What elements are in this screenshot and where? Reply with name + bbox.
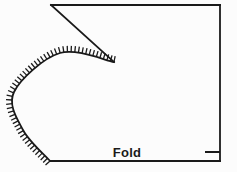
- seam-hatch-tick: [17, 77, 22, 81]
- seam-hatch-tick: [46, 161, 50, 165]
- seam-hatch-tick: [78, 47, 79, 53]
- seam-hatch-tick: [11, 118, 16, 121]
- seam-hatch-tick: [30, 145, 34, 149]
- seam-hatch-tick: [7, 95, 13, 96]
- seam-hatch-tick: [15, 124, 20, 127]
- seam-hatch-tick: [114, 56, 115, 62]
- seam-hatch-tick: [8, 91, 14, 93]
- seam-hatch-tick: [59, 47, 61, 53]
- hatched-seam-curve: [6, 46, 115, 165]
- seam-hatch-tick: [43, 158, 47, 162]
- seam-hatch-tick: [47, 52, 50, 57]
- seam-hatch-tick: [37, 59, 41, 64]
- pattern-diagram: Fold: [0, 0, 237, 172]
- seam-hatch-tick: [7, 107, 13, 108]
- seam-hatch-tick: [25, 140, 30, 144]
- seam-hatch-tick: [23, 71, 27, 75]
- seam-hatch-tick: [63, 46, 64, 52]
- seam-hatch-tick: [103, 53, 105, 59]
- seam-hatch-tick: [12, 83, 17, 86]
- seam-hatch-tick: [93, 50, 95, 56]
- seam-curve-path: [12, 52, 114, 161]
- seam-hatch-tick: [28, 66, 32, 70]
- seam-hatch-tick: [40, 56, 43, 61]
- seam-hatch-tick: [33, 148, 37, 152]
- seam-hatch-tick: [6, 104, 12, 105]
- seam-hatch-tick: [13, 121, 18, 124]
- seam-hatch-tick: [31, 63, 35, 68]
- seam-hatch-tick: [100, 52, 102, 58]
- seam-hatch-tick: [51, 50, 54, 55]
- seam-hatch-tick: [75, 46, 76, 52]
- seam-hatch-tick: [86, 48, 87, 54]
- seam-hatch-tick: [23, 137, 28, 141]
- seam-hatch-marks: [6, 46, 115, 165]
- seam-hatch-tick: [96, 51, 98, 57]
- seam-hatch-tick: [8, 111, 14, 113]
- seam-hatch-tick: [25, 68, 29, 72]
- seam-hatch-tick: [18, 131, 23, 134]
- seam-hatch-tick: [54, 49, 56, 55]
- seam-hatch-tick: [16, 127, 21, 130]
- seam-hatch-tick: [34, 61, 38, 66]
- seam-hatch-tick: [10, 87, 15, 90]
- static-shapes: [50, 5, 220, 161]
- seam-hatch-tick: [20, 134, 25, 137]
- seam-hatch-tick: [82, 47, 83, 53]
- seam-hatch-tick: [38, 153, 42, 157]
- seam-hatch-tick: [41, 156, 45, 160]
- seam-hatch-tick: [89, 49, 91, 55]
- fold-label: Fold: [113, 145, 142, 160]
- seam-hatch-tick: [15, 80, 20, 84]
- seam-hatch-tick: [20, 74, 24, 78]
- seam-hatch-tick: [28, 142, 33, 146]
- pattern-svg: Fold: [0, 0, 237, 172]
- seam-hatch-tick: [35, 151, 39, 155]
- seam-hatch-tick: [44, 54, 47, 59]
- seam-hatch-tick: [9, 114, 15, 116]
